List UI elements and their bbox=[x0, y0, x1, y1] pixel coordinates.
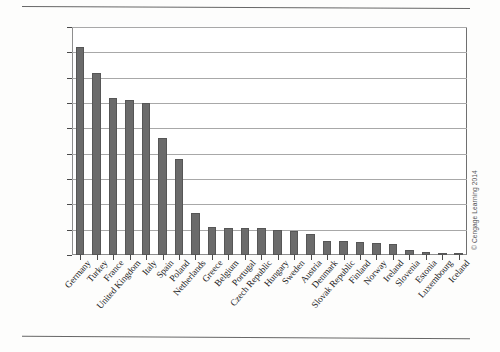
bar bbox=[290, 231, 299, 255]
bar bbox=[389, 244, 398, 255]
bar bbox=[191, 213, 200, 255]
bar bbox=[306, 234, 315, 255]
bar bbox=[109, 98, 118, 255]
bar bbox=[158, 138, 167, 255]
y-tick-mark bbox=[67, 255, 72, 256]
bar bbox=[76, 47, 85, 255]
bar bbox=[142, 103, 151, 255]
x-axis-labels: GermanyTurkeyFranceUnited KingdomItalySp… bbox=[72, 258, 472, 348]
bars-layer bbox=[72, 27, 467, 255]
bar bbox=[125, 100, 134, 255]
bar bbox=[208, 227, 217, 255]
bar bbox=[92, 73, 101, 255]
bar bbox=[241, 228, 250, 255]
figure-root: 010,000,00020,000,00030,000,00040,000,00… bbox=[0, 0, 500, 352]
bar bbox=[356, 242, 365, 255]
bar bbox=[323, 241, 332, 255]
bar bbox=[224, 228, 233, 255]
page-rule-top bbox=[22, 6, 470, 9]
copyright-credit: © Cengage Learning 2014 bbox=[471, 170, 478, 250]
bar bbox=[273, 230, 282, 255]
bar-chart: 010,000,00020,000,00030,000,00040,000,00… bbox=[72, 27, 467, 255]
bar bbox=[372, 243, 381, 255]
bar bbox=[339, 241, 348, 255]
bar bbox=[175, 159, 184, 255]
bar bbox=[257, 228, 266, 255]
